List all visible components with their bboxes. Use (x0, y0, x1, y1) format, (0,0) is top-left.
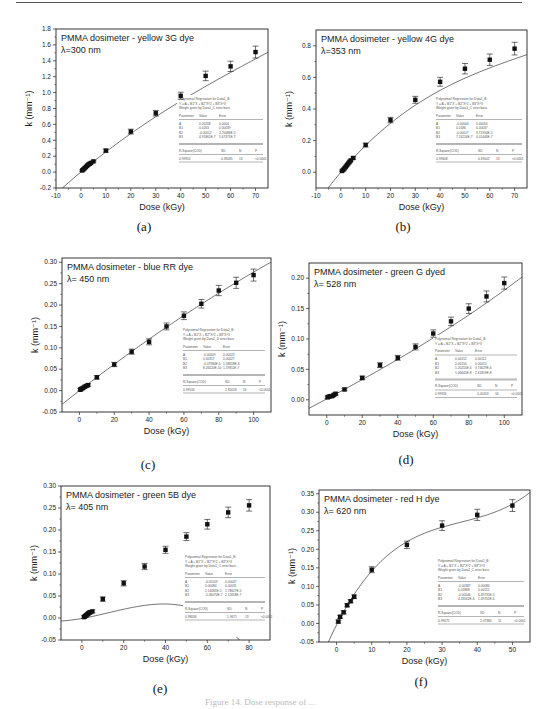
data-point-marker (345, 603, 349, 607)
y-tick-label: 0.20 (301, 546, 314, 553)
data-point-marker (341, 610, 345, 614)
stats-summary-header: R-Square(COD) (438, 611, 461, 615)
data-point-marker (440, 523, 444, 527)
data-point-marker (370, 568, 374, 572)
stats-cell: 4.33562E-6 (458, 597, 475, 601)
stats-cell: 6.49735E-5 (478, 593, 495, 597)
data-point-marker (405, 543, 409, 547)
subfigure-caption-f: (f) (401, 674, 441, 690)
x-tick-label: 10 (368, 646, 376, 653)
stats-summary-value: 0.99575 (438, 619, 450, 623)
data-point-marker (338, 615, 342, 619)
x-axis-title: Dose (kGy) (402, 656, 448, 666)
stats-cell: B1 (438, 588, 442, 592)
stats-cell: 1.09701E-6 (478, 597, 495, 601)
data-point-marker (510, 503, 514, 507)
stats-summary-header: P (514, 611, 516, 615)
figure-caption: Figure 14. Dose response of ... (205, 697, 315, 707)
stats-header-line: Polynomial Regression for Data2_B: (438, 559, 489, 563)
stats-summary-header: SD (480, 611, 485, 615)
x-tick-label: 50 (509, 646, 517, 653)
y-tick-label: 0.10 (301, 583, 314, 590)
stats-cell: -0.00387 (458, 584, 471, 588)
stats-cell: -0.00046 (458, 593, 471, 597)
stats-header-line: Weight given by Data2_C error bars. (438, 568, 490, 572)
stats-column-header: Parameter (438, 576, 454, 580)
stats-summary-value: 11 (498, 619, 502, 623)
subfigure-caption-b: (b) (383, 219, 423, 235)
data-point-marker (348, 599, 352, 603)
y-tick-label: 0.00 (301, 620, 314, 627)
y-axis: -0.050.000.050.100.150.200.250.300.35 (299, 490, 319, 645)
y-tick-label: 0.25 (301, 527, 314, 534)
stats-cell: B2 (438, 593, 442, 597)
stats-summary-value: <0.0001 (514, 619, 526, 623)
y-tick-label: -0.05 (299, 638, 314, 645)
y-tick-label: 0.35 (301, 490, 314, 497)
subfigure-caption-a: (a) (124, 219, 164, 235)
stats-summary-value: 2.07384 (480, 619, 492, 623)
subfigure-caption-e: (e) (140, 681, 180, 697)
regression-stats-box: Polynomial Regression for Data2_B:Y = A … (436, 557, 528, 640)
subfigure-caption-c: (c) (128, 457, 168, 473)
chart-title: PMMA dosimeter - red H dye (324, 494, 440, 504)
stats-cell: 0.00084 (478, 584, 490, 588)
y-tick-label: 0.05 (301, 601, 314, 608)
stats-cell: B3 (438, 597, 442, 601)
y-tick-label: 0.15 (301, 564, 314, 571)
x-tick-label: 40 (474, 646, 482, 653)
x-axis: 01020304050 (335, 642, 517, 653)
stats-cell: 0.00115 (478, 588, 490, 592)
x-tick-label: 0 (335, 646, 339, 653)
y-axis-title: k (mm⁻¹) (287, 548, 297, 584)
x-tick-label: 30 (438, 646, 446, 653)
stats-cell: 0.01868 (458, 588, 470, 592)
data-point-marker (352, 595, 356, 599)
chart-svg: 01020304050-0.050.000.050.100.150.200.25… (0, 0, 552, 709)
stats-header-line: Y = A + B1*X + B2*X^2 + B3*X^3 (438, 564, 485, 568)
data-point-marker (475, 513, 479, 517)
subfigure-caption-d: (d) (386, 452, 426, 468)
x-tick-label: 20 (403, 646, 411, 653)
stats-column-header: Value (458, 576, 466, 580)
chart-panel-f: 01020304050-0.050.000.050.100.150.200.25… (0, 0, 552, 709)
data-point-marker (336, 619, 340, 623)
chart-subtitle-wavelength: λ= 620 nm (324, 506, 366, 516)
y-tick-label: 0.30 (301, 508, 314, 515)
stats-column-header: Error (478, 576, 486, 580)
